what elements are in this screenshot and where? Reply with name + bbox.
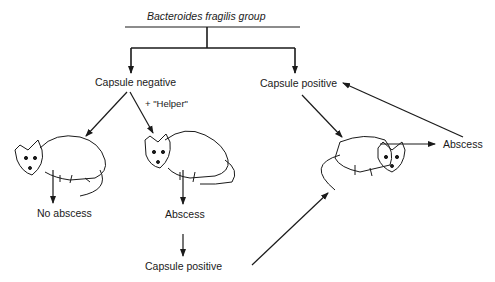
capsule-positive-bottom-label: Capsule positive [145, 261, 222, 272]
no-abscess-label: No abscess [37, 208, 92, 219]
capsule-positive-top-label: Capsule positive [260, 78, 337, 89]
abscess-right-label: Abscess [443, 139, 483, 150]
helper-label: + "Helper" [145, 99, 188, 109]
arrow-abscess-to-capsule-positive [343, 83, 463, 137]
abscess-middle-label: Abscess [165, 209, 205, 220]
flow-diagram [0, 0, 495, 282]
diagram-title: Bacteroides fragilis group [147, 11, 265, 22]
arrow-to-rat-right [252, 193, 328, 265]
capsule-negative-label: Capsule negative [95, 77, 176, 88]
arrow-to-rat-left [86, 92, 127, 136]
arrow-cap-pos-to-rat [302, 95, 342, 137]
rat-left-illustration [15, 136, 106, 196]
rat-middle-illustration [145, 131, 235, 184]
